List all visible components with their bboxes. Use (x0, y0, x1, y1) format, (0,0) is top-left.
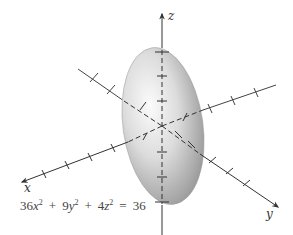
neg-x-ticks (90, 73, 115, 94)
y-axis-label: y (265, 207, 273, 221)
x-axis (22, 142, 128, 182)
z-axis-label: z (167, 9, 175, 23)
neg-y-axis-line (203, 85, 276, 110)
neg-x-axis-line (78, 69, 124, 101)
ellipsoid-diagram: z x y 36x2+9y2+4z2=36 (0, 0, 293, 235)
y-axis (200, 154, 278, 207)
y-ticks (209, 157, 250, 186)
x-axis-label: x (24, 181, 31, 195)
equation-label: 36x2+9y2+4z2=36 (20, 198, 146, 213)
neg-y-ticks (208, 88, 258, 113)
